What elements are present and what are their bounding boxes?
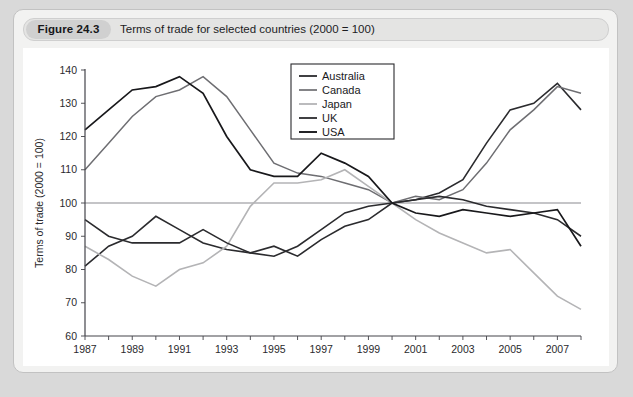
y-tick-label: 120 [59, 130, 77, 142]
y-tick-label: 100 [59, 197, 77, 209]
y-tick-label: 90 [65, 230, 77, 242]
x-tick-label: 1997 [310, 343, 334, 355]
y-axis-title-text: Terms of trade (2000 = 100) [33, 138, 45, 268]
figure-card: Figure 24.3 Terms of trade for selected … [13, 9, 618, 373]
figure-header: Figure 24.3 Terms of trade for selected … [23, 18, 609, 41]
x-tick-label: 2007 [546, 343, 570, 355]
x-tick-label: 1995 [262, 343, 286, 355]
y-tick-label: 130 [59, 97, 77, 109]
x-tick-label: 1991 [168, 343, 192, 355]
x-tick-label: 1993 [215, 343, 239, 355]
legend-label-usa: USA [322, 126, 345, 138]
legend-label-uk: UK [322, 112, 338, 124]
y-tick-label: 70 [65, 296, 77, 308]
x-tick-label: 2003 [451, 343, 475, 355]
x-tick-label: 2005 [498, 343, 522, 355]
y-tick-label: 80 [65, 263, 77, 275]
chart-plot-area: 60708090100110120130140 1987198919911993… [23, 48, 609, 366]
y-tick-label: 140 [59, 64, 77, 76]
x-tick-label: 1987 [73, 343, 97, 355]
y-tick-label: 60 [65, 330, 77, 342]
figure-caption: Terms of trade for selected countries (2… [120, 20, 375, 39]
y-axis-title: Terms of trade (2000 = 100) [33, 138, 45, 268]
line-chart: 60708090100110120130140 1987198919911993… [23, 48, 609, 366]
legend-label-australia: Australia [322, 70, 366, 82]
x-tick-label: 2001 [404, 343, 428, 355]
legend-label-canada: Canada [322, 84, 361, 96]
figure-number-badge: Figure 24.3 [26, 20, 111, 39]
x-tick-label: 1989 [121, 343, 145, 355]
legend-label-japan: Japan [322, 98, 352, 110]
y-tick-label: 110 [60, 163, 77, 175]
x-tick-label: 1999 [357, 343, 381, 355]
chart-legend: AustraliaCanadaJapanUKUSA [291, 64, 394, 139]
